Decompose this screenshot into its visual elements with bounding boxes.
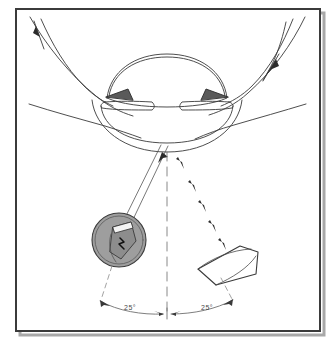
eye-illumination-diagram: 25° 25°: [0, 0, 333, 343]
diagram-canvas: 25° 25°: [0, 0, 333, 343]
right-angle-label: 25°: [201, 304, 213, 311]
left-angle-label: 25°: [124, 304, 136, 311]
